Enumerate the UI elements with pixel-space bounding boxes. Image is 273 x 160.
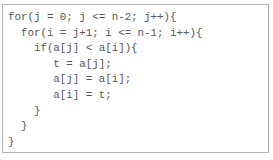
code-line-4: t = a[j]; bbox=[8, 57, 202, 73]
code-line-7: } bbox=[8, 104, 202, 120]
code-line-8: } bbox=[8, 119, 202, 135]
code-line-3: if(a[j] < a[i]){ bbox=[8, 41, 202, 57]
code-line-5: a[j] = a[i]; bbox=[8, 72, 202, 88]
code-line-6: a[i] = t; bbox=[8, 88, 202, 104]
code-block: for(j = 0; j <= n-2; j++){ for(i = j+1; … bbox=[2, 4, 269, 153]
code-line-2: for(i = j+1; i <= n-1; i++){ bbox=[8, 26, 202, 42]
code-line-9: } bbox=[8, 135, 202, 151]
code-line-1: for(j = 0; j <= n-2; j++){ bbox=[8, 10, 202, 26]
code-text: for(j = 0; j <= n-2; j++){ for(i = j+1; … bbox=[8, 10, 202, 150]
